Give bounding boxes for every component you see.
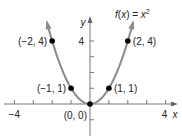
x-tick-label: 4 xyxy=(162,109,168,120)
x-tick-label: −4 xyxy=(9,109,21,120)
curve-arrow-icon xyxy=(128,20,134,29)
x-axis-arrow-icon xyxy=(171,102,178,107)
data-point xyxy=(125,38,131,44)
y-axis-arrow-icon xyxy=(88,16,93,23)
point-label: (0, 0) xyxy=(64,110,87,121)
point-label: (2, 4) xyxy=(133,36,156,47)
labeled-points: (−2, 4)(−1, 1)(0, 0)(1, 1)(2, 4) xyxy=(18,36,156,122)
data-point xyxy=(106,85,112,91)
point-label: (−1, 1) xyxy=(37,83,66,94)
point-label: (−2, 4) xyxy=(18,36,47,47)
curve-arrow-icon xyxy=(46,20,52,29)
axes xyxy=(4,16,178,136)
data-point xyxy=(68,85,74,91)
y-tick-label: 4 xyxy=(78,36,84,47)
function-label: f(x) = x2 xyxy=(115,8,150,20)
point-label: (1, 1) xyxy=(114,83,137,94)
x-axis-label: x xyxy=(172,109,179,120)
data-point xyxy=(87,101,93,107)
parabola-chart: (−2, 4)(−1, 1)(0, 0)(1, 1)(2, 4) −444xyf… xyxy=(0,0,182,138)
data-point xyxy=(49,38,55,44)
y-axis-label: y xyxy=(80,17,87,28)
